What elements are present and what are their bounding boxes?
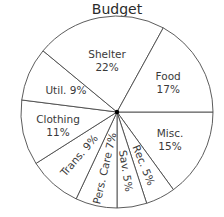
slice-value-misc: 15% [158, 140, 181, 152]
slice-label-util: Util. 9% [45, 84, 86, 96]
pie-chart: Budget Misc.15%Rec. 5%Sav. 5%Pers. Care … [0, 0, 224, 217]
slice-label-food: Food [156, 70, 181, 82]
chart-title: Budget [92, 1, 143, 17]
slice-label-shelter: Shelter [88, 48, 126, 60]
center-dot [115, 110, 119, 114]
slice-value-shelter: 22% [95, 61, 118, 73]
slice-label-misc: Misc. [157, 127, 184, 139]
slice-value-food: 17% [157, 83, 180, 95]
slice-label-clothing: Clothing [36, 113, 80, 125]
slice-value-clothing: 11% [46, 126, 69, 138]
